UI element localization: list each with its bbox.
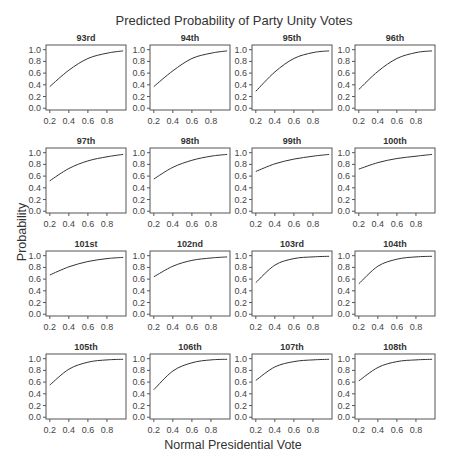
x-tick-label: 0.6 <box>186 116 199 126</box>
x-tick-label: 0.6 <box>82 322 95 332</box>
y-tick-label: 0.2 <box>234 92 247 102</box>
x-tick-label: 0.4 <box>63 425 76 435</box>
x-tick-label: 0.6 <box>288 219 301 229</box>
y-tick-label: 0.6 <box>28 68 41 78</box>
y-tick-label: 1.0 <box>28 148 41 158</box>
plot-frame <box>46 148 126 213</box>
x-tick-label: 0.6 <box>82 425 95 435</box>
x-tick-label: 0.8 <box>205 116 218 126</box>
x-tick-label: 0.2 <box>44 322 57 332</box>
x-tick-label: 0.4 <box>372 322 385 332</box>
y-tick-label: 0.2 <box>28 401 41 411</box>
plot-frame <box>252 148 332 213</box>
y-tick-label: 0.4 <box>28 286 41 296</box>
x-tick-label: 0.2 <box>250 425 263 435</box>
x-tick-label: 0.8 <box>101 425 114 435</box>
y-tick-label: 0.4 <box>234 286 247 296</box>
y-tick-label: 0.2 <box>337 195 350 205</box>
y-tick-label: 0.8 <box>28 56 41 66</box>
y-tick-label: 0.6 <box>28 377 41 387</box>
y-tick-label: 0.8 <box>337 262 350 272</box>
y-tick-label: 0.0 <box>28 206 41 216</box>
x-tick-label: 0.4 <box>372 116 385 126</box>
panel-title: 98th <box>181 136 200 146</box>
y-tick-label: 0.4 <box>234 183 247 193</box>
y-tick-label: 0.0 <box>132 103 145 113</box>
x-axis-label: Normal Presidential Vote <box>164 438 302 452</box>
x-tick-label: 0.2 <box>250 322 263 332</box>
y-tick-label: 0.6 <box>337 171 350 181</box>
panel-103rd: 103rd0.00.20.40.60.81.00.20.40.60.8 <box>234 239 332 332</box>
y-tick-label: 0.4 <box>337 80 350 90</box>
x-tick-label: 0.6 <box>288 425 301 435</box>
x-tick-label: 0.8 <box>101 322 114 332</box>
x-tick-label: 0.2 <box>148 116 161 126</box>
x-tick-label: 0.8 <box>410 116 423 126</box>
x-tick-label: 0.2 <box>148 425 161 435</box>
panel-title: 105th <box>74 342 98 352</box>
panel-title: 101st <box>74 239 97 249</box>
panel-title: 96th <box>386 33 405 43</box>
x-tick-label: 0.8 <box>410 219 423 229</box>
y-tick-label: 0.8 <box>234 262 247 272</box>
panel-title: 100th <box>383 136 407 146</box>
x-tick-label: 0.8 <box>307 219 320 229</box>
panel-title: 107th <box>280 342 304 352</box>
x-tick-label: 0.4 <box>269 322 282 332</box>
panel-104th: 104th0.00.20.40.60.81.00.20.40.60.8 <box>337 239 435 332</box>
y-tick-label: 0.2 <box>337 401 350 411</box>
y-tick-label: 0.8 <box>132 365 145 375</box>
x-tick-label: 0.6 <box>288 116 301 126</box>
y-tick-label: 0.4 <box>132 389 145 399</box>
y-tick-label: 0.6 <box>337 68 350 78</box>
y-tick-label: 0.8 <box>234 159 247 169</box>
plot-frame <box>355 148 435 213</box>
plot-frame <box>46 45 126 110</box>
y-tick-label: 0.2 <box>28 195 41 205</box>
panel-96th: 96th0.00.20.40.60.81.00.20.40.60.8 <box>337 33 435 126</box>
y-tick-label: 0.6 <box>234 171 247 181</box>
y-tick-label: 0.8 <box>234 365 247 375</box>
y-tick-label: 1.0 <box>28 354 41 364</box>
x-tick-label: 0.8 <box>307 322 320 332</box>
panel-title: 94th <box>181 33 200 43</box>
y-tick-label: 1.0 <box>234 148 247 158</box>
panel-106th: 106th0.00.20.40.60.81.00.20.40.60.8 <box>132 342 230 435</box>
y-tick-label: 0.2 <box>132 401 145 411</box>
x-tick-label: 0.8 <box>205 322 218 332</box>
y-tick-label: 0.0 <box>28 412 41 422</box>
y-tick-label: 0.4 <box>132 183 145 193</box>
panel-98th: 98th0.00.20.40.60.81.00.20.40.60.8 <box>132 136 230 229</box>
y-tick-label: 0.0 <box>337 103 350 113</box>
y-tick-label: 0.4 <box>28 389 41 399</box>
y-tick-label: 0.2 <box>234 401 247 411</box>
plot-frame <box>355 251 435 316</box>
y-tick-label: 0.8 <box>132 159 145 169</box>
x-tick-label: 0.4 <box>63 219 76 229</box>
y-tick-label: 1.0 <box>234 45 247 55</box>
y-tick-label: 0.2 <box>132 92 145 102</box>
x-tick-label: 0.2 <box>353 425 366 435</box>
y-tick-label: 0.2 <box>132 195 145 205</box>
y-tick-label: 0.0 <box>337 412 350 422</box>
plot-frame <box>252 251 332 316</box>
y-tick-label: 0.4 <box>234 389 247 399</box>
y-tick-label: 1.0 <box>234 251 247 261</box>
panel-105th: 105th0.00.20.40.60.81.00.20.40.60.8 <box>28 342 126 435</box>
x-tick-label: 0.2 <box>148 219 161 229</box>
y-tick-label: 0.8 <box>337 159 350 169</box>
panel-title: 97th <box>77 136 96 146</box>
chart-title: Predicted Probability of Party Unity Vot… <box>115 13 353 28</box>
y-tick-label: 0.2 <box>132 298 145 308</box>
x-tick-label: 0.6 <box>391 116 404 126</box>
plot-frame <box>252 45 332 110</box>
y-tick-label: 0.0 <box>234 412 247 422</box>
x-tick-label: 0.6 <box>186 322 199 332</box>
y-tick-label: 0.6 <box>132 68 145 78</box>
y-tick-label: 0.2 <box>234 298 247 308</box>
y-tick-label: 0.8 <box>132 56 145 66</box>
y-tick-label: 0.4 <box>28 80 41 90</box>
panel-94th: 94th0.00.20.40.60.81.00.20.40.60.8 <box>132 33 230 126</box>
chart: Predicted Probability of Party Unity Vot… <box>0 0 457 462</box>
y-tick-label: 0.4 <box>337 183 350 193</box>
